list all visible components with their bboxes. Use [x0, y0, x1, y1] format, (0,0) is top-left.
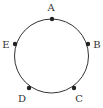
point-b-dot: [86, 42, 90, 46]
point-a-label: A: [46, 2, 55, 13]
point-c-dot: [72, 86, 76, 90]
point-d-dot: [27, 86, 31, 90]
point-a: A: [46, 2, 55, 21]
point-d-label: D: [18, 93, 26, 104]
point-c-label: C: [75, 93, 83, 104]
point-e-dot: [13, 42, 17, 46]
circle-diagram: A B C D E: [0, 0, 103, 108]
point-c: C: [72, 86, 83, 104]
point-e-label: E: [2, 39, 9, 50]
main-circle: [15, 19, 89, 93]
point-b-label: B: [93, 39, 100, 50]
point-a-dot: [50, 17, 54, 21]
point-d: D: [18, 86, 31, 104]
